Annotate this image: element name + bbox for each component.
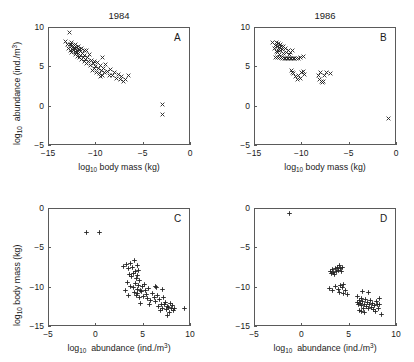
y-tick [254,66,257,67]
data-point [73,42,78,47]
y-tick [48,208,51,209]
y-tick-label: −5 [22,140,44,150]
data-point [69,44,74,49]
x-tick [349,323,350,326]
x-tick-label: −10 [294,148,308,158]
data-point [165,313,170,318]
data-point [292,56,297,61]
data-point [126,293,131,298]
data-point [291,71,296,76]
data-point [376,306,381,311]
data-point [338,283,343,288]
data-point [155,293,160,298]
panel-letter-c: C [174,213,181,224]
data-point [73,52,78,57]
data-point [103,62,108,67]
data-point [328,71,333,76]
data-point [327,286,332,291]
y-tick-label: −10 [228,282,250,292]
data-point [358,301,363,306]
data-point [92,59,97,64]
data-point [287,52,292,57]
data-point [341,291,346,296]
data-point [135,287,140,292]
data-point [148,298,153,303]
data-point [171,308,176,313]
data-point [272,46,277,51]
data-point [362,310,367,315]
data-point [343,288,348,293]
y-tick [48,66,51,67]
data-point [369,305,374,310]
data-point [139,289,144,294]
data-point [135,263,140,268]
y-tick-label: 0 [228,203,250,213]
data-point [329,271,334,276]
data-point [172,306,177,311]
data-point [135,291,140,296]
x-tick-label: 0 [188,148,193,158]
data-point [170,303,175,308]
data-point [357,298,362,303]
data-point [82,53,87,58]
data-point [74,45,79,50]
data-point [316,73,321,78]
y-tick-label: −15 [228,321,250,331]
data-point [84,48,89,53]
data-point [367,302,372,307]
data-point [334,269,339,274]
data-point [279,55,284,60]
data-point [275,55,280,60]
data-point [359,296,364,301]
data-point [138,301,143,306]
data-point [164,307,169,312]
data-point [77,47,82,52]
data-point [336,287,341,292]
data-point [160,112,165,117]
data-point [182,306,187,311]
data-point [131,271,136,276]
data-point [116,72,121,77]
data-point [71,48,76,53]
data-point [333,284,338,289]
data-point [338,266,343,271]
x-tick [396,142,397,145]
data-point [101,66,106,71]
data-point [126,73,131,78]
data-point [70,47,75,52]
data-point [162,302,167,307]
data-point [299,70,304,75]
data-point [296,73,301,78]
data-point [94,70,99,75]
data-point [119,74,124,79]
data-point [276,41,281,46]
data-point [123,288,128,293]
x-tick-label: 10 [391,329,400,339]
data-point [73,49,78,54]
y-tick-label: 5 [228,61,250,71]
data-point [273,43,278,48]
data-point [286,56,291,61]
data-point [335,265,340,270]
data-point [363,297,368,302]
data-point [331,270,336,275]
data-point [154,285,159,290]
data-point [118,77,123,82]
panel-title-a: 1984 [48,10,190,21]
data-point [105,69,110,74]
data-point [124,262,129,267]
y-tick [254,326,257,327]
data-point [301,69,306,74]
data-point [275,50,280,55]
data-point [153,299,158,304]
data-point [150,291,155,296]
y-tick-label: 10 [22,22,44,32]
data-point [156,304,161,309]
data-point [320,80,325,85]
data-point [136,283,141,288]
panel-letter-d: D [380,213,387,224]
data-point [86,59,91,64]
x-tick-label: −5 [138,148,148,158]
data-point [152,295,157,300]
data-point [277,52,282,57]
